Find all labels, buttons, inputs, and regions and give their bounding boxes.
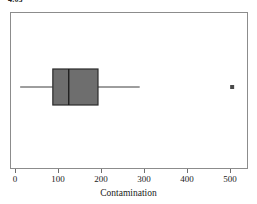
- x-tick-label: 100: [51, 174, 65, 185]
- x-tick-mark: [144, 169, 145, 173]
- x-tick-mark: [230, 169, 231, 173]
- x-tick-label: 0: [13, 174, 18, 185]
- x-tick-mark: [58, 169, 59, 173]
- x-axis-title: Contamination: [0, 187, 257, 199]
- x-tick-label: 200: [94, 174, 108, 185]
- boxplot-drawing: [0, 0, 257, 204]
- x-tick-label: 300: [137, 174, 151, 185]
- x-tick-mark: [15, 169, 16, 173]
- box-body: [53, 69, 98, 105]
- x-tick-mark: [187, 169, 188, 173]
- x-tick-mark: [101, 169, 102, 173]
- boxplot-figure: 4.03 0100200300400500 Contamination: [0, 0, 257, 204]
- x-tick-label: 400: [180, 174, 194, 185]
- x-tick-label: 500: [223, 174, 237, 185]
- outlier-point: [230, 85, 234, 89]
